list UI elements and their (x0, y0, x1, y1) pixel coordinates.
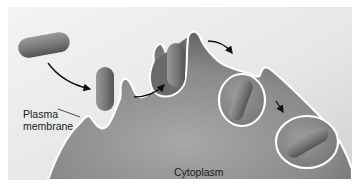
plasma-membrane-label: Plasma membrane (23, 108, 73, 132)
endocytosis-illustration (8, 7, 352, 180)
plasma-membrane-label-line2: membrane (23, 120, 73, 132)
cytoplasm-label: Cytoplasm (174, 166, 224, 178)
particle-contacting (96, 67, 114, 111)
diagram-frame: Plasma membrane Cytoplasm (8, 7, 352, 180)
particle-engulfed (167, 43, 185, 87)
plasma-membrane-label-line1: Plasma (23, 108, 73, 120)
